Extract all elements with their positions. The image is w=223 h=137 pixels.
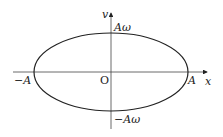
pos-x-intercept-label: A (187, 74, 196, 87)
neg-y-intercept-label: −Aω (114, 113, 140, 126)
neg-x-intercept-label: −A (14, 74, 31, 87)
phase-diagram: v x O A −A Aω −Aω (0, 0, 223, 137)
x-axis-label: x (205, 75, 212, 88)
origin-label: O (100, 74, 109, 87)
y-axis-label: v (102, 8, 109, 21)
pos-y-intercept-label: Aω (113, 21, 131, 34)
